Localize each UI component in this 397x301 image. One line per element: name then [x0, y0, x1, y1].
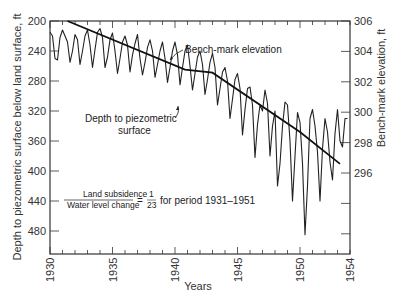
- right-y-tick-label: 296: [354, 167, 372, 179]
- x-tick-label: 1930: [44, 258, 56, 282]
- top-axis-ticks: [50, 21, 350, 28]
- ratio-annotation: Land subsidence Water level change = 1 2…: [64, 189, 256, 210]
- subsidence-chart: 193019351940194519501954 200240280320360…: [0, 0, 397, 301]
- left-y-tick-label: 280: [28, 75, 46, 87]
- left-y-axis-title: Depth to piezometric surface below land …: [11, 13, 23, 260]
- x-tick-label: 1954: [344, 258, 356, 282]
- right-y-axis-title: Bench-mark elevation, ft: [375, 29, 387, 148]
- left-y-tick-label: 320: [28, 105, 46, 117]
- depth-annotation: Depth to piezometric surface: [85, 106, 179, 136]
- left-y-tick-label: 440: [28, 195, 46, 207]
- left-y-tick-label: 360: [28, 135, 46, 147]
- ratio-value-num: 1: [149, 189, 154, 199]
- x-tick-label: 1950: [294, 258, 306, 282]
- plot-frame: [50, 21, 350, 254]
- right-y-tick-label: 298: [354, 137, 372, 149]
- left-y-tick-label: 480: [28, 225, 46, 237]
- x-tick-label: 1940: [169, 258, 181, 282]
- right-y-tick-label: 300: [354, 106, 372, 118]
- bench-mark-annotation: Bench-mark elevation: [170, 44, 282, 60]
- ratio-suffix: for period 1931–1951: [160, 195, 256, 206]
- left-y-tick-label: 200: [28, 15, 46, 27]
- ratio-value-den: 23: [147, 200, 157, 210]
- right-y-tick-label: 306: [354, 15, 372, 27]
- ratio-denominator: Water level change: [67, 200, 140, 210]
- bench-mark-label: Bench-mark elevation: [185, 44, 282, 55]
- ratio-equals: =: [137, 195, 143, 206]
- depth-label-line1: Depth to piezometric: [85, 113, 177, 124]
- x-axis-ticks: 193019351940194519501954: [44, 247, 356, 282]
- right-y-tick-label: 302: [354, 76, 372, 88]
- x-tick-label: 1935: [107, 258, 119, 282]
- left-y-tick-label: 240: [28, 45, 46, 57]
- left-y-tick-label: 400: [28, 165, 46, 177]
- depth-label-line2: surface: [118, 125, 151, 136]
- right-y-axis: 306304302300298296: [341, 15, 372, 234]
- x-axis-title: Years: [184, 280, 212, 292]
- right-y-tick-label: 304: [354, 45, 372, 57]
- x-tick-label: 1945: [232, 258, 244, 282]
- bench-mark-elevation-line: [68, 21, 341, 164]
